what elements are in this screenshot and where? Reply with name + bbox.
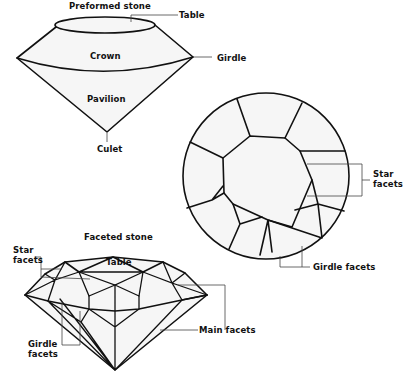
girdle-label: Girdle <box>217 53 246 63</box>
main-facets-label: Main facets <box>199 325 256 335</box>
preformed-stone-title: Preformed stone <box>69 1 151 11</box>
preformed-outline <box>17 25 193 132</box>
faceted-girdle-facets-label: Girdle facets <box>28 339 58 359</box>
star-facets-line1: Star <box>373 169 403 179</box>
top-view-star-facets-label: Star facets <box>373 169 403 189</box>
faceted-star-facets-label: Star facets <box>13 245 43 265</box>
preformed-table-label: Table <box>179 10 205 20</box>
faceted-table-label: Table <box>106 257 132 267</box>
top-view-drawing <box>183 93 370 267</box>
faceted-girdle-line2: facets <box>28 349 58 359</box>
star-facets-line2: facets <box>373 179 403 189</box>
culet-label: Culet <box>97 144 123 154</box>
crown-label: Crown <box>90 51 121 61</box>
pavilion-label: Pavilion <box>87 94 126 104</box>
faceted-stone-title: Faceted stone <box>84 232 153 242</box>
preformed-stone-drawing <box>17 15 212 142</box>
preformed-table <box>55 17 155 33</box>
faceted-star-line2: facets <box>13 255 43 265</box>
faceted-girdle-line1: Girdle <box>28 339 58 349</box>
top-view-girdle-circle <box>183 93 349 259</box>
top-view-girdle-facets-label: Girdle facets <box>313 262 375 272</box>
faceted-star-line1: Star <box>13 245 43 255</box>
